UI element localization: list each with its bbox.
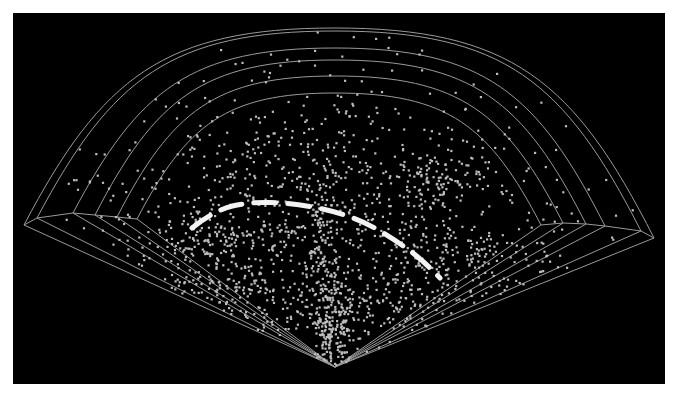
data-point [203,80,205,82]
data-point [228,307,230,309]
data-point [444,164,446,166]
data-point [328,261,330,263]
data-point [458,161,460,163]
data-point [395,307,397,309]
data-point [429,138,431,140]
data-point [212,204,214,206]
data-point [449,229,451,231]
data-point [168,224,170,226]
data-point [171,238,173,240]
data-point [447,278,449,280]
data-point [372,258,374,260]
data-point [380,162,382,164]
data-point [403,161,405,163]
data-points [66,31,634,366]
data-point [534,152,536,154]
data-point [369,166,371,168]
data-point [311,288,313,290]
data-point [284,302,286,304]
data-point [247,295,249,297]
data-point [372,277,374,279]
data-point [343,146,345,148]
data-point [423,269,425,271]
data-point [389,321,391,323]
data-point [233,280,235,282]
data-point [366,351,368,353]
data-point [453,231,455,233]
data-point [245,142,247,144]
data-point [280,241,282,243]
data-point [335,329,337,331]
data-point [174,249,176,251]
data-point [476,171,478,173]
data-point [326,175,328,177]
data-point [240,267,242,269]
data-point [267,182,269,184]
data-point [215,226,217,228]
data-point [304,227,306,229]
data-point [359,302,361,304]
data-point [428,167,430,169]
data-point [528,212,530,214]
data-point [343,351,345,353]
data-point [444,206,446,208]
data-point [334,308,336,310]
data-point [336,229,338,231]
data-point [324,167,326,169]
data-point [279,65,281,67]
data-point [325,343,327,345]
data-point [214,231,216,233]
data-point [306,306,308,308]
data-point [313,173,315,175]
data-point [218,281,220,283]
data-point [220,225,222,227]
data-point [169,202,171,204]
data-point [482,147,484,149]
data-point [266,313,268,315]
data-point [329,221,331,223]
data-point [232,232,234,234]
data-point [298,289,300,291]
data-point [522,246,524,248]
data-point [264,224,266,226]
data-point [542,261,544,263]
data-point [326,296,328,298]
data-point [474,267,476,269]
data-point [264,205,266,207]
data-point [258,117,260,119]
data-point [336,204,338,206]
data-point [318,203,320,205]
data-point [487,185,489,187]
data-point [546,255,548,257]
data-point [247,200,249,202]
data-point [341,345,343,347]
data-point [542,219,544,221]
data-point [470,259,472,261]
data-point [366,165,368,167]
data-point [353,36,355,38]
data-point [151,169,153,171]
data-point [379,235,381,237]
data-point [479,178,481,180]
data-point [476,242,478,244]
data-point [498,284,500,286]
data-point [396,246,398,248]
data-point [323,358,325,360]
data-point [334,259,336,261]
data-point [271,185,273,187]
data-point [368,116,370,118]
data-point [335,289,337,291]
data-point [318,314,320,316]
data-point [452,254,454,256]
data-point [303,132,305,134]
data-point [325,338,327,340]
data-point [301,239,303,241]
data-point [199,230,201,232]
data-point [342,321,344,323]
data-point [392,278,394,280]
data-point [193,239,195,241]
data-point [326,351,328,353]
data-point [147,231,149,233]
data-point [423,218,425,220]
data-point [321,325,323,327]
